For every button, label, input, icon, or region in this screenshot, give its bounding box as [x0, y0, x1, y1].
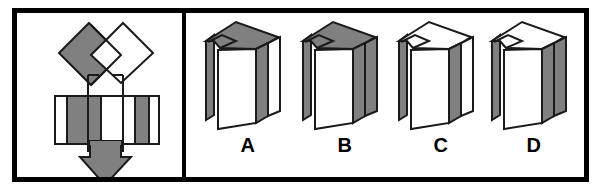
option-d-figure: [486, 19, 582, 137]
option-b-front-face: [315, 49, 353, 129]
option-b-far-right-panel: [365, 37, 377, 116]
option-d-label: D: [486, 135, 582, 155]
option-a[interactable]: A: [200, 19, 296, 171]
option-b-right-side-face: [353, 43, 365, 123]
stimulus-panel: [17, 13, 182, 177]
option-a-left-back-panel: [206, 35, 214, 120]
options-panel: A B C: [186, 13, 584, 177]
middle-band-right-strip: [149, 96, 159, 144]
option-c-far-right-panel: [461, 37, 473, 116]
middle-band-center-panel: [101, 96, 135, 144]
option-c-left-back-panel: [399, 35, 407, 120]
option-b[interactable]: B: [297, 19, 393, 171]
option-d-far-right-panel: [554, 37, 566, 116]
option-d-right-side-face: [542, 43, 554, 123]
option-c-figure: [393, 19, 489, 137]
option-c-front-face: [411, 49, 449, 129]
option-a-figure: [200, 19, 296, 137]
middle-band-left-panel: [67, 96, 101, 144]
option-b-figure: [297, 19, 393, 137]
test-item-page: A B C: [0, 0, 604, 193]
option-b-label: B: [297, 135, 393, 155]
option-a-label: A: [200, 135, 296, 155]
middle-band-right-panel: [135, 96, 149, 144]
option-d-left-back-panel: [492, 35, 500, 120]
option-c-label: C: [393, 135, 489, 155]
option-b-left-back-panel: [303, 35, 311, 120]
option-a-far-right-panel: [268, 37, 280, 116]
option-a-right-side-face: [256, 43, 268, 123]
unfolded-net-figure: [17, 13, 182, 177]
arrow-shaft-over-band: [90, 141, 121, 145]
option-c[interactable]: C: [393, 19, 489, 171]
option-d[interactable]: D: [486, 19, 582, 171]
option-c-right-side-face: [449, 43, 461, 123]
option-a-front-face: [218, 49, 256, 129]
option-d-front-face: [504, 49, 542, 129]
middle-band-left-strip: [55, 96, 67, 144]
